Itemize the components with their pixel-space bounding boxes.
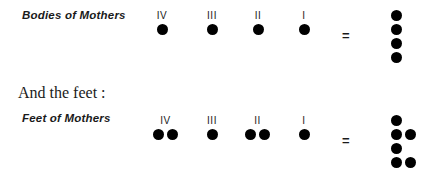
row1-numeral-iii: III: [207, 10, 217, 21]
row1-dots-ii: [253, 24, 264, 35]
dot: [391, 38, 402, 49]
diagram-canvas: Bodies of Mothers IV III II I =: [0, 0, 433, 177]
result-dot-row: [391, 52, 402, 63]
dot: [299, 24, 310, 35]
row1-result-cluster: [391, 10, 402, 63]
dot: [167, 129, 178, 140]
result-dot-row: [391, 10, 402, 21]
row2-dots-iii: [207, 129, 218, 140]
row1-dots-iv: [157, 24, 168, 35]
row1-column-iii: III: [200, 10, 224, 35]
row1-column-i: I: [292, 10, 316, 35]
result-dot-row: [391, 24, 402, 35]
dot: [391, 115, 402, 126]
result-dot-row: [391, 143, 416, 154]
dot: [391, 143, 402, 154]
row2-numeral-iv: IV: [160, 115, 170, 126]
row-label-bodies: Bodies of Mothers: [22, 9, 126, 21]
row2-dots-iv: [153, 129, 178, 140]
dot: [253, 24, 264, 35]
result-dot-row: [391, 115, 416, 126]
row2-column-iv: IV: [150, 115, 181, 140]
dot: [391, 129, 402, 140]
row1-equals-sign: =: [342, 29, 350, 42]
row2-result-cluster: [391, 115, 416, 168]
dot: [391, 24, 402, 35]
dot: [153, 129, 164, 140]
row2-dots-i: [299, 129, 310, 140]
row1-dots-i: [299, 24, 310, 35]
row1-numeral-ii: II: [255, 10, 262, 21]
row1-dots-iii: [207, 24, 218, 35]
dot: [207, 129, 218, 140]
result-dot-row: [391, 157, 416, 168]
row2-column-ii: II: [242, 115, 273, 140]
dot: [157, 24, 168, 35]
row1-numeral-i: I: [302, 10, 305, 21]
dot: [405, 157, 416, 168]
row1-column-iv: IV: [150, 10, 174, 35]
dot: [299, 129, 310, 140]
row2-numeral-iii: III: [207, 115, 217, 126]
dot: [259, 129, 270, 140]
row2-column-iii: III: [200, 115, 224, 140]
dot: [391, 10, 402, 21]
row2-numeral-i: I: [302, 115, 305, 126]
dot: [391, 157, 402, 168]
dot: [391, 52, 402, 63]
row2-numeral-ii: II: [254, 115, 261, 126]
row1-column-ii: II: [246, 10, 270, 35]
row2-equals-sign: =: [342, 134, 350, 147]
row-label-feet: Feet of Mothers: [22, 112, 111, 124]
row1-numeral-iv: IV: [157, 10, 167, 21]
dot: [207, 24, 218, 35]
section-heading-feet: And the feet :: [18, 84, 106, 102]
result-dot-row: [391, 38, 402, 49]
dot: [245, 129, 256, 140]
row2-column-i: I: [292, 115, 316, 140]
dot: [405, 129, 416, 140]
result-dot-row: [391, 129, 416, 140]
row2-dots-ii: [245, 129, 270, 140]
